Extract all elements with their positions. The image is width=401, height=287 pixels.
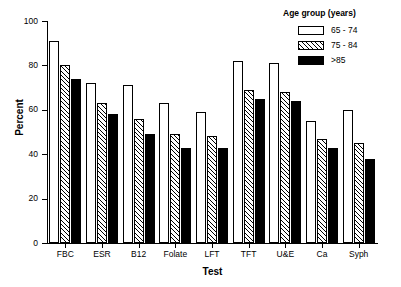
x-axis-tick	[65, 244, 66, 248]
bar	[49, 41, 59, 243]
x-axis-tick	[285, 244, 286, 248]
bar	[196, 112, 206, 243]
bar	[207, 136, 217, 243]
bar	[317, 139, 327, 243]
legend-title: Age group (years)	[283, 8, 399, 19]
legend-entry: 75 - 84	[283, 39, 399, 52]
bar	[97, 103, 107, 243]
y-axis-title: Percent	[14, 63, 25, 173]
bar	[145, 134, 155, 243]
bar	[343, 110, 353, 243]
legend: Age group (years) 65 - 7475 - 84>85	[283, 8, 399, 69]
bar	[233, 61, 243, 243]
x-axis-tick	[249, 244, 250, 248]
bar	[365, 159, 375, 243]
x-axis-tick	[359, 244, 360, 248]
x-axis-tick	[139, 244, 140, 248]
legend-entries: 65 - 7475 - 84>85	[283, 24, 399, 67]
bar	[328, 148, 338, 243]
bar	[244, 90, 254, 243]
legend-swatch-icon	[298, 26, 324, 35]
legend-entry-label: 75 - 84	[331, 41, 357, 50]
bar-chart: 020406080100 Percent Test FBCESRB12Folat…	[0, 0, 401, 287]
x-axis-tick	[322, 244, 323, 248]
x-axis-tick	[212, 244, 213, 248]
bar	[354, 143, 364, 243]
legend-swatch-icon	[298, 41, 324, 50]
bar	[71, 79, 81, 243]
bar	[306, 121, 316, 243]
y-axis-tick-label: 80	[29, 61, 38, 70]
legend-entry-label: >85	[331, 56, 345, 65]
legend-entry-label: 65 - 74	[331, 26, 357, 35]
bar	[218, 148, 228, 243]
bar	[159, 103, 169, 243]
legend-entry: 65 - 74	[283, 24, 399, 37]
x-axis-category-label: Syph	[329, 250, 389, 259]
bar	[108, 114, 118, 243]
bar	[291, 101, 301, 243]
legend-entry: >85	[283, 54, 399, 67]
y-axis-tick	[42, 243, 47, 244]
bar	[86, 83, 96, 243]
bar	[123, 85, 133, 243]
bar	[255, 99, 265, 243]
y-axis-tick-label: 60	[29, 105, 38, 114]
y-axis-tick-label: 0	[33, 239, 38, 248]
bar	[181, 148, 191, 243]
y-axis-tick-label: 20	[29, 194, 38, 203]
x-axis-tick	[102, 244, 103, 248]
x-axis-tick	[175, 244, 176, 248]
bar	[280, 92, 290, 243]
bar	[134, 119, 144, 243]
bar	[269, 63, 279, 243]
bar	[170, 134, 180, 243]
bar	[60, 65, 70, 243]
y-axis-tick-label: 40	[29, 150, 38, 159]
y-axis-tick-label: 100	[24, 17, 38, 26]
x-axis-title: Test	[47, 266, 378, 277]
legend-swatch-icon	[298, 56, 324, 65]
